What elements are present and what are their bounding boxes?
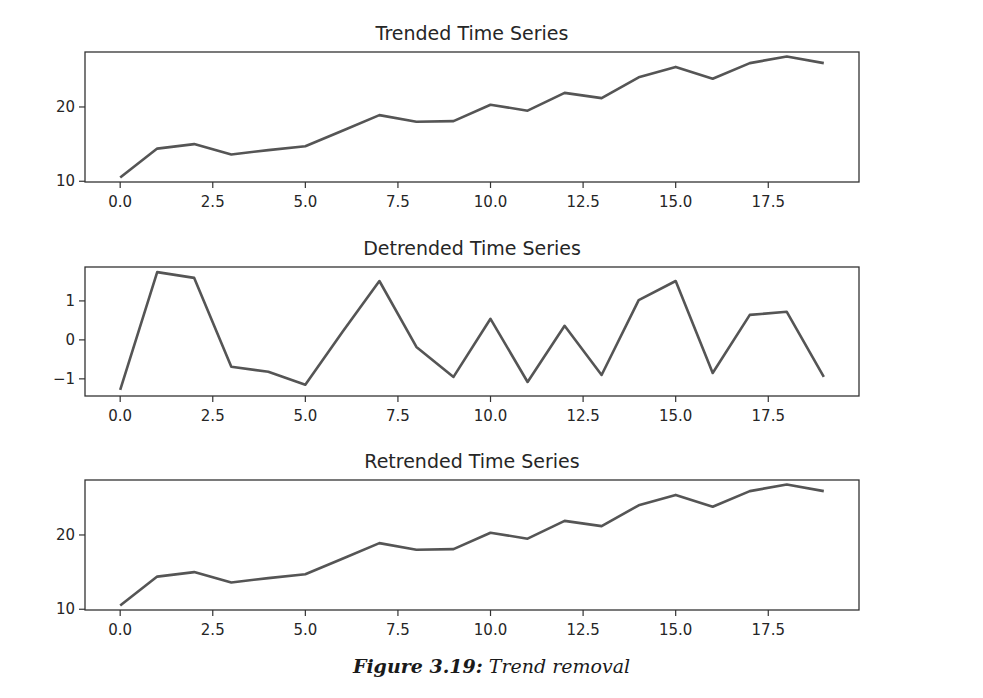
x-tick-label: 0.0 [108,407,132,425]
x-tick-label: 17.5 [752,193,785,211]
chart-title: Retrended Time Series [364,450,579,472]
x-tick-label: 10.0 [474,621,507,639]
y-tick-label: 20 [56,526,75,544]
trended-time-series-chart: Trended Time Series0.02.55.07.510.012.51… [56,22,859,211]
figure-caption: Figure 3.19: Trend removal [0,655,983,677]
data-line [120,485,824,606]
x-tick-label: 17.5 [752,621,785,639]
x-tick-label: 10.0 [474,407,507,425]
figure-caption-label: Figure 3.19: [353,655,483,677]
y-tick-label: 0 [65,331,75,349]
x-tick-label: 7.5 [386,193,410,211]
y-tick-label: 1 [65,292,75,310]
x-tick-label: 12.5 [566,407,599,425]
x-tick-label: 15.0 [659,193,692,211]
x-tick-label: 17.5 [752,407,785,425]
x-tick-label: 12.5 [566,193,599,211]
chart-title: Detrended Time Series [363,237,581,259]
x-tick-label: 5.0 [293,621,317,639]
x-tick-label: 15.0 [659,621,692,639]
axes-frame [85,52,859,182]
y-tick-label: 10 [56,172,75,190]
figure-caption-text: Trend removal [483,655,630,677]
x-tick-label: 0.0 [108,621,132,639]
x-tick-label: 7.5 [386,621,410,639]
figure: Trended Time Series0.02.55.07.510.012.51… [0,0,983,698]
data-line [120,272,824,390]
x-tick-label: 12.5 [566,621,599,639]
y-tick-label: −1 [53,370,75,388]
x-tick-label: 5.0 [293,407,317,425]
x-tick-label: 2.5 [201,407,225,425]
axes-frame [85,480,859,610]
x-tick-label: 15.0 [659,407,692,425]
y-tick-label: 20 [56,98,75,116]
y-tick-label: 10 [56,600,75,618]
x-tick-label: 7.5 [386,407,410,425]
retrended-time-series-chart: Retrended Time Series0.02.55.07.510.012.… [56,450,859,639]
x-tick-label: 0.0 [108,193,132,211]
x-tick-label: 2.5 [201,193,225,211]
data-line [120,57,824,178]
x-tick-label: 2.5 [201,621,225,639]
axes-frame [85,267,859,396]
detrended-time-series-chart: Detrended Time Series0.02.55.07.510.012.… [53,237,859,425]
chart-title: Trended Time Series [375,22,569,44]
x-tick-label: 10.0 [474,193,507,211]
x-tick-label: 5.0 [293,193,317,211]
